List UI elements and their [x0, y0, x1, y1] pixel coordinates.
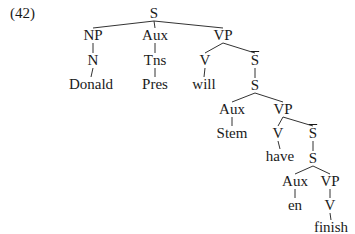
- tree-node-tns: Tns: [144, 52, 167, 68]
- tree-node-aux1: Aux: [142, 27, 168, 43]
- tree-node-n: N: [88, 52, 99, 68]
- tree-node-will: will: [192, 76, 215, 92]
- tree-node-v2: V: [273, 125, 284, 141]
- tree-node-vp2: VP: [273, 101, 292, 117]
- tree-node-donald: Donald: [69, 76, 113, 92]
- tree-node-have: have: [266, 148, 294, 164]
- tree-node-v1: V: [200, 52, 211, 68]
- tree-node-s1: S: [150, 5, 158, 21]
- tree-node-np: NP: [83, 27, 102, 43]
- tree-node-en: en: [288, 197, 302, 213]
- tree-node-finish: finish: [314, 219, 348, 234]
- tree-node-vp3: VP: [320, 173, 339, 189]
- tree-node-vp1: VP: [213, 27, 232, 43]
- example-number: (42): [10, 5, 35, 22]
- tree-node-v3: V: [325, 197, 336, 213]
- tree-node-pres: Pres: [142, 76, 168, 92]
- tree-node-aux3: Aux: [282, 173, 308, 189]
- tree-node-s2: S: [251, 77, 259, 93]
- syntax-tree: (42) SNPNDonaldAuxTnsPresVPVwillSSAuxSte…: [0, 0, 355, 234]
- tree-node-s3: S: [309, 150, 317, 166]
- tree-node-aux2: Aux: [219, 101, 245, 117]
- tree-node-stem: Stem: [217, 125, 248, 141]
- tree-node-sbar1: S: [251, 52, 259, 68]
- tree-node-sbar2: S: [309, 125, 317, 141]
